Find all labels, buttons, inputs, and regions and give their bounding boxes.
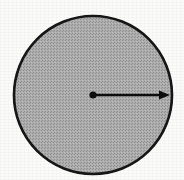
figure-container xyxy=(0,0,184,180)
circle-radius-diagram xyxy=(0,0,184,180)
center-dot xyxy=(89,91,96,98)
